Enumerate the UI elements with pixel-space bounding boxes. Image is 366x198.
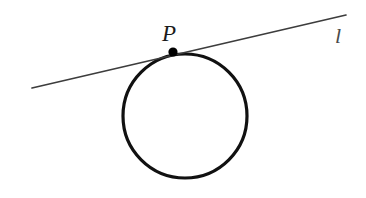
diagram-canvas xyxy=(0,0,366,198)
tangent-point-dot xyxy=(168,47,177,56)
point-p-label: P xyxy=(162,22,176,45)
tangent-line-label: l xyxy=(335,25,341,47)
circle-shape xyxy=(123,54,247,178)
tangent-line xyxy=(32,15,346,88)
geometry-diagram: P l xyxy=(0,0,366,198)
